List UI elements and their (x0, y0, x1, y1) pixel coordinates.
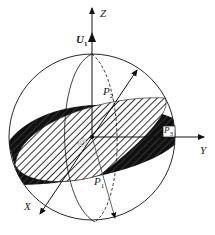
x-axis-label: X (24, 201, 31, 212)
sphere-diagram (0, 0, 215, 235)
origin-label: O (78, 137, 86, 148)
u1-arrowhead (88, 32, 96, 42)
z-axis-label: Z (100, 8, 106, 19)
origin-point (90, 135, 94, 139)
y-axis-label: Y (200, 145, 206, 156)
u1-label: U1 (76, 34, 87, 48)
p3-label: P3 (164, 126, 173, 138)
p1-label: P1 (94, 176, 104, 190)
p2-label: P2 (103, 86, 113, 100)
